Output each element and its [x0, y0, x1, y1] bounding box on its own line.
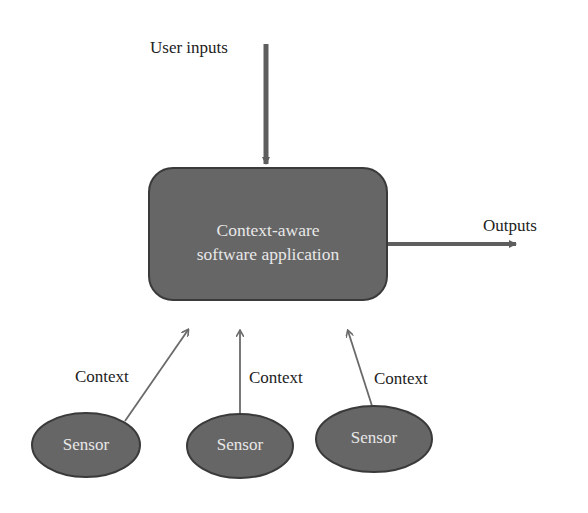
main-box-line-1: Context-aware — [148, 218, 388, 242]
sensor-label-3: Sensor — [319, 428, 429, 448]
sensor-label-1: Sensor — [31, 435, 141, 455]
outputs-label: Outputs — [483, 216, 537, 236]
context-arrow-1 — [125, 330, 188, 421]
context-arrow-3 — [348, 331, 373, 409]
context-label-3: Context — [374, 369, 428, 389]
context-label-1: Context — [75, 367, 129, 387]
user-inputs-label: User inputs — [150, 38, 228, 58]
main-box-label: Context-aware software application — [148, 218, 388, 266]
sensor-label-2: Sensor — [185, 435, 295, 455]
context-label-2: Context — [249, 368, 303, 388]
main-box-line-2: software application — [148, 242, 388, 266]
